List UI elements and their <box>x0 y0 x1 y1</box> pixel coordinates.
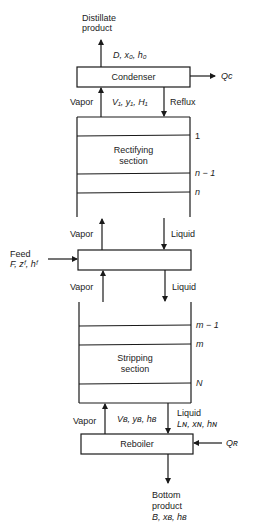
reboiler-label: Reboiler <box>81 439 193 449</box>
stripping-label: Stripping <box>79 353 191 363</box>
distillate-label: Distillate <box>82 13 116 23</box>
distillate-vars: D, x₀, h₀ <box>113 50 147 60</box>
bottom-liquid-vars: Lɴ, xɴ, hɴ <box>177 419 217 429</box>
vapor-below-feed-label: Vapor <box>70 282 93 292</box>
condenser-label: Condenser <box>77 72 190 82</box>
qr-label: Qʀ <box>226 438 238 448</box>
stage-n-label: n <box>195 187 200 197</box>
feed-stage-box <box>78 250 191 270</box>
reflux-label: Reflux <box>170 97 196 107</box>
stage-m-minus-1-label: m − 1 <box>196 320 219 330</box>
qc-label: Qᴄ <box>221 71 233 81</box>
rectifying-label-2: section <box>77 156 190 166</box>
bottom-vapor-label: Vapor <box>73 416 96 426</box>
bottoms-vars: B, xʙ, hʙ <box>152 512 187 522</box>
liquid-above-feed-label: Liquid <box>171 229 195 239</box>
stage-1-label: 1 <box>195 131 200 141</box>
bottom-liquid-label: Liquid <box>177 408 201 418</box>
bottom-vapor-vars: Vʙ, yʙ, hʙ <box>117 414 156 424</box>
stripping-label-2: section <box>79 364 191 374</box>
stage-n-minus-1-label: n − 1 <box>195 168 215 178</box>
distillate-label-2: product <box>82 23 112 33</box>
rectifying-label: Rectifying <box>77 145 190 155</box>
feed-vars: F, zᶠ, hᶠ <box>10 259 38 269</box>
bottoms-label: Bottom <box>152 490 181 500</box>
stage-N-label: N <box>196 378 203 388</box>
vapor-above-feed-label: Vapor <box>70 229 93 239</box>
liquid-below-feed-label: Liquid <box>172 282 196 292</box>
top-vapor-label: Vapor <box>70 97 93 107</box>
bottoms-label-2: product <box>152 501 182 511</box>
feed-label: Feed <box>10 249 31 259</box>
top-vapor-vars: V₁, y₁, H₁ <box>112 97 148 107</box>
stage-m-label: m <box>196 339 204 349</box>
